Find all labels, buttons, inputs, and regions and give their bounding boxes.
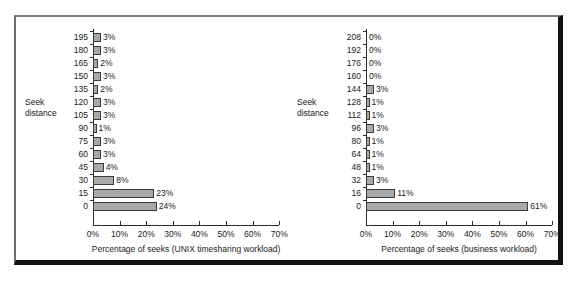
bar-value-label: 0% — [369, 57, 381, 70]
x-tick — [253, 221, 254, 225]
y-tick — [363, 57, 366, 58]
y-tick — [90, 83, 93, 84]
chart-caption-right: Percentage of seeks (business workload) — [381, 244, 536, 255]
bar — [93, 163, 104, 172]
bar-value-label: 11% — [397, 187, 413, 200]
category-label: 0 — [83, 200, 88, 213]
bar — [366, 137, 370, 146]
x-tick-label: 10% — [384, 229, 401, 239]
category-label: 0 — [356, 200, 361, 213]
category-label: 16 — [352, 187, 361, 200]
category-label: 32 — [352, 174, 361, 187]
bar-value-label: 0% — [369, 44, 381, 57]
bar-value-label: 24% — [159, 200, 176, 213]
plot-area-right: Seek distance Percentage of seeks (busin… — [288, 17, 565, 267]
y-tick — [90, 161, 93, 162]
x-tick-label: 50% — [217, 229, 234, 239]
bar-row: 1503% — [93, 70, 279, 83]
bar-row: 061% — [366, 200, 552, 213]
y-tick — [90, 31, 93, 32]
y-tick — [90, 187, 93, 188]
bar-value-label: 3% — [103, 109, 115, 122]
bar — [93, 59, 98, 68]
category-label: 208 — [347, 31, 361, 44]
bar-value-label: 3% — [376, 83, 388, 96]
bar-row: 1803% — [93, 44, 279, 57]
bar-row: 1352% — [93, 83, 279, 96]
bar-row: 1611% — [366, 187, 552, 200]
bar-value-label: 3% — [103, 44, 115, 57]
y-tick — [363, 135, 366, 136]
category-label: 160 — [347, 70, 361, 83]
bar-row: 1053% — [93, 109, 279, 122]
bar-row: 1523% — [93, 187, 279, 200]
chart-business: Seek distance Percentage of seeks (busin… — [288, 17, 565, 267]
y-tick — [363, 187, 366, 188]
x-tick-label: 20% — [138, 229, 155, 239]
bar — [93, 189, 154, 198]
bar-row: 323% — [366, 174, 552, 187]
bar-value-label: 3% — [376, 122, 388, 135]
bar-value-label: 1% — [372, 109, 384, 122]
y-tick — [363, 96, 366, 97]
bar — [366, 189, 395, 198]
bar-row: 1953% — [93, 31, 279, 44]
chart-caption-left: Percentage of seeks (UNIX timesharing wo… — [92, 244, 281, 255]
x-tick-label: 30% — [164, 229, 181, 239]
bar-value-label: 4% — [106, 161, 118, 174]
x-tick-label: 10% — [111, 229, 128, 239]
y-tick — [363, 200, 366, 201]
bar — [366, 202, 528, 211]
y-axis-title-line1: Seek — [297, 97, 316, 107]
bar-value-label: 1% — [372, 148, 384, 161]
bar — [93, 85, 98, 94]
bar-value-label: 23% — [156, 187, 173, 200]
y-tick — [90, 109, 93, 110]
y-axis-title-right: Seek distance — [297, 97, 329, 119]
category-label: 45 — [79, 161, 88, 174]
x-tick — [279, 221, 280, 225]
category-label: 64 — [352, 148, 361, 161]
y-tick — [363, 148, 366, 149]
x-tick — [226, 221, 227, 225]
bar-row: 1652% — [93, 57, 279, 70]
y-tick — [363, 109, 366, 110]
bar — [366, 163, 370, 172]
x-tick-label: 20% — [411, 229, 428, 239]
bar — [366, 176, 374, 185]
bar-row: 454% — [93, 161, 279, 174]
bar — [93, 137, 101, 146]
bar-row: 1281% — [366, 96, 552, 109]
bar-row: 1121% — [366, 109, 552, 122]
y-tick — [90, 70, 93, 71]
chart-unix-timesharing: Seek distance Percentage of seeks (UNIX … — [16, 17, 306, 267]
bar — [93, 111, 101, 120]
y-tick — [90, 148, 93, 149]
bar — [93, 202, 157, 211]
bar-row: 603% — [93, 148, 279, 161]
x-tick — [173, 221, 174, 225]
x-tick — [419, 221, 420, 225]
bar-row: 1920% — [366, 44, 552, 57]
figure-frame: Seek distance Percentage of seeks (UNIX … — [14, 15, 563, 265]
bar-value-label: 8% — [116, 174, 128, 187]
bar-value-label: 1% — [372, 161, 384, 174]
bar-row: 1760% — [366, 57, 552, 70]
bar-value-label: 2% — [100, 83, 112, 96]
bar-row: 1203% — [93, 96, 279, 109]
bar-row: 024% — [93, 200, 279, 213]
category-label: 75 — [79, 135, 88, 148]
y-tick — [90, 200, 93, 201]
y-tick — [90, 44, 93, 45]
bar — [366, 150, 370, 159]
bar-value-label: 61% — [530, 200, 547, 213]
y-tick — [90, 135, 93, 136]
y-tick — [363, 31, 366, 32]
x-tick — [499, 221, 500, 225]
bar-row: 753% — [93, 135, 279, 148]
y-tick — [363, 83, 366, 84]
bar — [93, 72, 101, 81]
category-label: 112 — [347, 109, 361, 122]
y-tick — [90, 122, 93, 123]
x-tick-label: 70% — [271, 229, 288, 239]
